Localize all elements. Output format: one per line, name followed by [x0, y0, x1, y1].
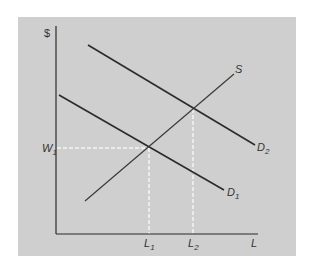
- demand-curve-d1: [59, 95, 224, 190]
- x-axis-label: L: [251, 237, 257, 249]
- supply-curve-s: [85, 74, 234, 201]
- demand-curve-d2: [88, 45, 255, 145]
- d2-label: D2: [257, 141, 270, 156]
- supply-label: S: [235, 63, 243, 75]
- supply-demand-diagram: $ L S D2 D1 W1 L1 L2: [0, 0, 312, 269]
- l1-label: L1: [144, 237, 155, 252]
- y-axis-label: $: [44, 27, 50, 39]
- l2-label: L2: [188, 237, 199, 252]
- d1-label: D1: [227, 186, 239, 201]
- w1-label: W1: [42, 142, 57, 157]
